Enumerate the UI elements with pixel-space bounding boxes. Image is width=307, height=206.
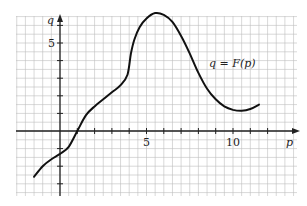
y-tick-label-5: 5 (48, 37, 55, 50)
x-tick-label-5: 5 (143, 136, 150, 149)
function-graph: q 5 5 10 p q = F(p) (0, 0, 307, 206)
y-axis-label: q (47, 14, 54, 27)
x-axis-label: p (286, 136, 293, 149)
x-tick-label-10: 10 (226, 136, 240, 149)
curve-annotation: q = F(p) (209, 57, 256, 70)
